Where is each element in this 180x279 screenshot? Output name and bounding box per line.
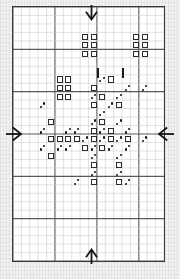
- open-square-symbol[interactable]: [91, 128, 97, 134]
- dot: [43, 145, 45, 147]
- dot: [99, 131, 101, 133]
- dot: [128, 85, 130, 87]
- open-square-symbol[interactable]: [65, 76, 71, 82]
- open-square-symbol[interactable]: [116, 162, 122, 168]
- double-dot-symbol[interactable]: [64, 126, 73, 135]
- open-square-symbol[interactable]: [48, 153, 54, 159]
- stitch-symbol-layer[interactable]: [13, 7, 164, 261]
- open-square-symbol[interactable]: [108, 136, 114, 142]
- dot: [40, 106, 42, 108]
- double-dot-symbol[interactable]: [90, 92, 99, 101]
- dot: [77, 179, 79, 181]
- double-dot-symbol[interactable]: [98, 135, 107, 144]
- dot: [120, 94, 122, 96]
- open-square-symbol[interactable]: [99, 94, 105, 100]
- double-dot-symbol[interactable]: [81, 135, 90, 144]
- open-square-symbol[interactable]: [108, 76, 114, 82]
- dot: [99, 80, 101, 82]
- dot: [120, 171, 122, 173]
- open-square-symbol[interactable]: [48, 136, 54, 142]
- double-dot-symbol[interactable]: [141, 84, 150, 93]
- dot: [103, 128, 105, 130]
- open-square-symbol[interactable]: [48, 119, 54, 125]
- open-square-symbol[interactable]: [74, 136, 80, 142]
- open-square-symbol[interactable]: [82, 145, 88, 151]
- open-square-symbol[interactable]: [99, 119, 105, 125]
- open-square-symbol[interactable]: [91, 42, 97, 48]
- open-square-symbol[interactable]: [133, 51, 139, 57]
- open-square-symbol[interactable]: [108, 128, 114, 134]
- double-dot-symbol[interactable]: [107, 144, 116, 153]
- open-square-symbol[interactable]: [125, 136, 131, 142]
- open-square-symbol[interactable]: [91, 34, 97, 40]
- double-dot-symbol[interactable]: [98, 75, 107, 84]
- open-square-symbol[interactable]: [133, 42, 139, 48]
- double-dot-symbol[interactable]: [98, 126, 107, 135]
- double-dot-symbol[interactable]: [115, 92, 124, 101]
- dot: [40, 148, 42, 150]
- open-square-symbol[interactable]: [91, 51, 97, 57]
- open-square-symbol[interactable]: [57, 76, 63, 82]
- open-square-symbol[interactable]: [91, 179, 97, 185]
- scanned-page: [0, 0, 180, 279]
- double-dot-symbol[interactable]: [90, 152, 99, 161]
- open-square-symbol[interactable]: [82, 51, 88, 57]
- dot: [145, 85, 147, 87]
- dot: [60, 145, 62, 147]
- open-square-symbol[interactable]: [82, 34, 88, 40]
- double-dot-symbol[interactable]: [73, 178, 82, 187]
- open-square-symbol[interactable]: [57, 94, 63, 100]
- open-square-symbol[interactable]: [142, 42, 148, 48]
- double-dot-symbol[interactable]: [124, 178, 133, 187]
- dot: [99, 140, 101, 142]
- dot: [99, 114, 101, 116]
- double-dot-symbol[interactable]: [73, 126, 82, 135]
- double-dot-symbol[interactable]: [124, 126, 133, 135]
- double-dot-symbol[interactable]: [39, 101, 48, 110]
- double-dot-symbol[interactable]: [124, 144, 133, 153]
- center-arrow-left: [157, 126, 175, 142]
- column-tick-right: [122, 68, 124, 78]
- double-dot-symbol[interactable]: [39, 126, 48, 135]
- dot: [108, 106, 110, 108]
- open-square-symbol[interactable]: [99, 145, 105, 151]
- double-dot-symbol[interactable]: [64, 144, 73, 153]
- open-square-symbol[interactable]: [133, 34, 139, 40]
- open-square-symbol[interactable]: [142, 34, 148, 40]
- double-dot-symbol[interactable]: [124, 84, 133, 93]
- dot: [43, 102, 45, 104]
- center-arrow-up: [84, 248, 99, 265]
- open-square-symbol[interactable]: [116, 179, 122, 185]
- open-square-symbol[interactable]: [65, 94, 71, 100]
- double-dot-symbol[interactable]: [56, 144, 65, 153]
- dot: [125, 183, 127, 185]
- open-square-symbol[interactable]: [82, 42, 88, 48]
- open-square-symbol[interactable]: [65, 136, 71, 142]
- dot: [128, 179, 130, 181]
- open-square-symbol[interactable]: [91, 85, 97, 91]
- double-dot-symbol[interactable]: [141, 135, 150, 144]
- open-square-symbol[interactable]: [91, 136, 97, 142]
- double-dot-symbol[interactable]: [107, 101, 116, 110]
- open-square-symbol[interactable]: [57, 136, 63, 142]
- double-dot-symbol[interactable]: [115, 152, 124, 161]
- double-dot-symbol[interactable]: [90, 169, 99, 178]
- dot: [69, 128, 71, 130]
- open-square-symbol[interactable]: [65, 85, 71, 91]
- double-dot-symbol[interactable]: [115, 169, 124, 178]
- open-square-symbol[interactable]: [57, 85, 63, 91]
- open-square-symbol[interactable]: [116, 102, 122, 108]
- pattern-chart-panel[interactable]: [12, 6, 165, 262]
- double-dot-symbol[interactable]: [115, 118, 124, 127]
- open-square-symbol[interactable]: [91, 162, 97, 168]
- double-dot-symbol[interactable]: [115, 135, 124, 144]
- double-dot-symbol[interactable]: [39, 144, 48, 153]
- dot: [65, 131, 67, 133]
- open-square-symbol[interactable]: [91, 102, 97, 108]
- double-dot-symbol[interactable]: [90, 144, 99, 153]
- dot: [91, 97, 93, 99]
- dot: [94, 119, 96, 121]
- double-dot-symbol[interactable]: [98, 109, 107, 118]
- open-square-symbol[interactable]: [142, 51, 148, 57]
- double-dot-symbol[interactable]: [90, 118, 99, 127]
